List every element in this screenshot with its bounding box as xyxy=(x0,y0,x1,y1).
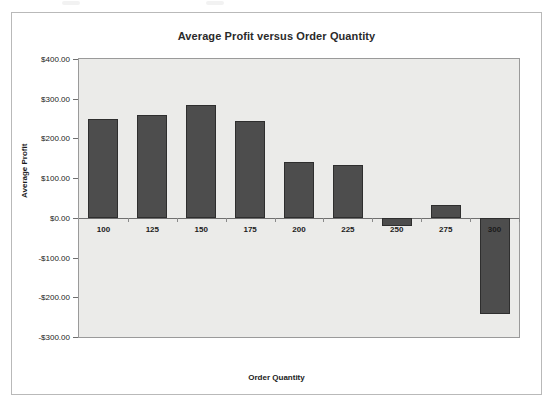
bar xyxy=(333,165,363,217)
y-axis-tick-label: -$100.00 xyxy=(38,253,70,262)
chart-screenshot: Average Profit versus Order Quantity Ave… xyxy=(0,0,554,407)
x-axis-tick xyxy=(323,218,324,222)
x-axis-tick xyxy=(177,218,178,222)
x-axis-tick-label: 125 xyxy=(146,225,159,234)
x-axis-tick-label: 150 xyxy=(195,225,208,234)
bar xyxy=(186,105,216,217)
x-axis-tick-label: 200 xyxy=(292,225,305,234)
chart-title: Average Profit versus Order Quantity xyxy=(12,30,541,42)
x-axis-tick xyxy=(128,218,129,222)
x-axis-tick-label: 250 xyxy=(390,225,403,234)
x-axis-tick xyxy=(275,218,276,222)
y-axis-tick-label: $300.00 xyxy=(41,94,70,103)
x-axis-tick xyxy=(470,218,471,222)
x-axis-tick xyxy=(519,218,520,222)
bar xyxy=(235,121,265,218)
x-axis-tick-label: 275 xyxy=(439,225,452,234)
x-axis-tick-label: 300 xyxy=(488,225,501,234)
x-axis-title: Order Quantity xyxy=(12,373,541,382)
y-axis-tick-label: $0.00 xyxy=(50,213,70,222)
x-axis-tick-label: 100 xyxy=(97,225,110,234)
chart-card: Average Profit versus Order Quantity Ave… xyxy=(11,12,542,395)
zero-axis-line xyxy=(79,218,519,219)
artifact-mark-right xyxy=(206,1,224,5)
bar xyxy=(137,115,167,217)
y-axis-labels: $400.00$300.00$200.00$100.00$0.00-$100.0… xyxy=(12,58,78,338)
bar xyxy=(431,205,461,218)
plot-area xyxy=(78,58,520,338)
x-axis-tick xyxy=(421,218,422,222)
x-axis-tick-label: 175 xyxy=(243,225,256,234)
bar xyxy=(88,119,118,217)
y-axis-tick-label: -$300.00 xyxy=(38,333,70,342)
x-axis-tick xyxy=(372,218,373,222)
y-axis-tick-label: $400.00 xyxy=(41,55,70,64)
top-edge-artifact xyxy=(0,0,554,11)
y-axis-tick-label: -$200.00 xyxy=(38,293,70,302)
x-axis-tick xyxy=(226,218,227,222)
artifact-mark-left xyxy=(62,1,80,5)
plot-inner xyxy=(79,59,519,337)
x-axis-tick-label: 225 xyxy=(341,225,354,234)
y-axis-tick-label: $100.00 xyxy=(41,174,70,183)
bar xyxy=(284,162,314,218)
y-axis-tick-label: $200.00 xyxy=(41,134,70,143)
